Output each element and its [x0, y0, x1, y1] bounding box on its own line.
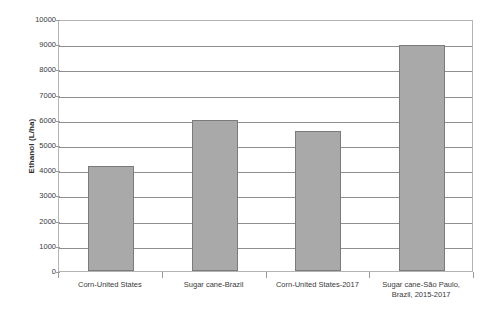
- bars-group: [59, 21, 472, 271]
- x-axis-tick-mark: [369, 272, 370, 278]
- y-axis-tick-label: 4000: [22, 167, 56, 175]
- x-axis-category-label-line: Corn-United States: [58, 280, 162, 290]
- y-axis-tick-mark: [56, 196, 60, 197]
- x-axis-category-label: Sugar cane-São Paulo,Brazil, 2015-2017: [369, 280, 473, 300]
- y-axis-tick-label: 3000: [22, 192, 56, 200]
- y-axis-tick-mark: [56, 171, 60, 172]
- y-axis-tick-mark: [56, 20, 60, 21]
- y-axis-tick-label: 9000: [22, 41, 56, 49]
- bar: [295, 131, 341, 271]
- y-axis-tick-mark: [56, 70, 60, 71]
- y-axis-tick-mark: [56, 45, 60, 46]
- y-axis-tick-labels: 1000090008000700060005000400030002000100…: [22, 20, 56, 272]
- y-axis-tick-label: 2000: [22, 218, 56, 226]
- bar: [88, 166, 134, 271]
- x-axis-category-labels: Corn-United StatesSugar cane-BrazilCorn-…: [58, 280, 473, 308]
- y-axis-tick-label: 1000: [22, 243, 56, 251]
- x-axis-tick-mark: [473, 272, 474, 278]
- y-axis-tick-label: 8000: [22, 66, 56, 74]
- x-axis-category-label-line: Corn-United States-2017: [266, 280, 370, 290]
- bar: [192, 120, 238, 271]
- x-axis-tick-mark: [266, 272, 267, 278]
- y-axis-tick-label: 7000: [22, 92, 56, 100]
- y-axis-tick-label: 5000: [22, 142, 56, 150]
- x-axis-category-label-line: Brazil, 2015-2017: [369, 290, 473, 300]
- x-axis-category-label: Sugar cane-Brazil: [162, 280, 266, 290]
- bar: [399, 45, 445, 271]
- y-axis-tick-label: 6000: [22, 117, 56, 125]
- x-axis-category-label: Corn-United States: [58, 280, 162, 290]
- y-axis-tick-mark: [56, 247, 60, 248]
- y-axis-tick-mark: [56, 222, 60, 223]
- x-axis-category-label-line: Sugar cane-Brazil: [162, 280, 266, 290]
- x-axis-category-label: Corn-United States-2017: [266, 280, 370, 290]
- x-axis-category-label-line: Sugar cane-São Paulo,: [369, 280, 473, 290]
- plot-area: [58, 20, 473, 272]
- y-axis-tick-label: 0: [22, 268, 56, 276]
- y-axis-tick-mark: [56, 272, 60, 273]
- x-axis-tick-mark: [162, 272, 163, 278]
- bar-chart: Ethanol (L/ha) 1000090008000700060005000…: [0, 0, 494, 310]
- y-axis-tick-mark: [56, 96, 60, 97]
- y-axis-tick-mark: [56, 121, 60, 122]
- y-axis-tick-label: 10000: [22, 16, 56, 24]
- y-axis-tick-mark: [56, 146, 60, 147]
